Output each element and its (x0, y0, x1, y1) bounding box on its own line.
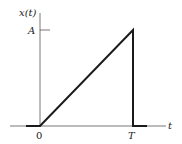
x-axis-label: t (168, 120, 173, 131)
end-label: T (128, 130, 136, 141)
signal-diagram: x(t) A t 0 T (0, 0, 182, 144)
origin-label: 0 (36, 130, 42, 141)
waveform (26, 30, 147, 126)
y-axis-label: x(t) (19, 7, 37, 18)
amplitude-label: A (27, 25, 35, 36)
